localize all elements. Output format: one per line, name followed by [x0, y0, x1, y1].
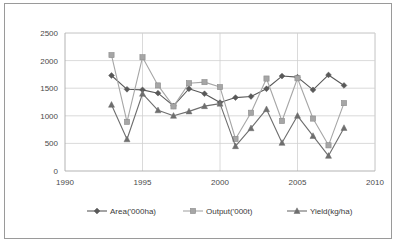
data-point-marker: [295, 76, 300, 81]
data-point-marker: [202, 91, 208, 97]
legend-item-1[interactable]: Area('000ha): [87, 207, 156, 216]
data-point-marker: [140, 91, 146, 97]
series-1: [109, 72, 347, 109]
legend-item-label: Area('000ha): [110, 207, 156, 216]
y-tick-label: 1500: [40, 84, 58, 93]
x-tick-label: 1995: [134, 178, 152, 187]
x-tick-label: 2005: [289, 178, 307, 187]
legend-item-2[interactable]: Output('000t): [183, 207, 253, 216]
data-point-marker: [217, 84, 222, 89]
data-point-marker: [109, 102, 115, 108]
data-point-marker: [233, 95, 239, 101]
data-point-marker: [109, 52, 114, 57]
y-tick-label: 0: [54, 167, 59, 176]
data-point-marker: [264, 106, 270, 112]
x-tick-label: 2010: [366, 178, 384, 187]
x-tick-label: 1990: [56, 178, 74, 187]
data-point-marker: [140, 55, 145, 60]
data-point-marker: [186, 81, 191, 86]
data-point-marker: [264, 76, 269, 81]
series-3: [109, 91, 348, 159]
x-tick-label: 2000: [211, 178, 229, 187]
legend-item-3[interactable]: Yield(kg/ha): [287, 207, 353, 216]
data-point-marker: [279, 140, 285, 146]
data-point-marker: [171, 104, 176, 109]
data-point-marker: [155, 83, 160, 88]
data-point-marker: [279, 118, 284, 123]
data-point-marker: [248, 94, 254, 100]
data-point-marker: [190, 208, 195, 213]
data-point-marker: [94, 208, 100, 214]
legend-item-label: Output('000t): [206, 207, 253, 216]
y-tick-label: 2500: [40, 29, 58, 38]
chart-figure-frame: 05001000150020002500 1990199520002005201…: [4, 3, 392, 239]
line-chart: 05001000150020002500 1990199520002005201…: [5, 4, 393, 240]
data-series-group: [109, 52, 348, 158]
data-point-marker: [124, 136, 130, 142]
data-point-marker: [341, 125, 347, 131]
data-point-marker: [124, 119, 129, 124]
data-point-marker: [202, 80, 207, 85]
series-line: [112, 94, 345, 156]
data-point-marker: [341, 101, 346, 106]
data-point-marker: [248, 110, 253, 115]
series-line: [112, 75, 345, 106]
data-point-marker: [310, 116, 315, 121]
legend-item-label: Yield(kg/ha): [310, 207, 353, 216]
x-axis-tick-labels: 19901995200020052010: [56, 178, 384, 187]
chart-legend: Area('000ha)Output('000t)Yield(kg/ha): [87, 207, 353, 216]
y-tick-label: 2000: [40, 57, 58, 66]
y-tick-label: 500: [45, 139, 59, 148]
data-point-marker: [326, 143, 331, 148]
y-axis-tick-labels: 05001000150020002500: [40, 29, 58, 176]
y-tick-label: 1000: [40, 112, 58, 121]
